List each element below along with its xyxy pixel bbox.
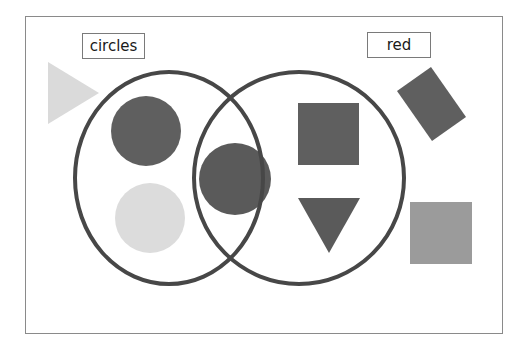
circle-red-left-shape [111, 96, 181, 166]
set-label-circles-text: circles [90, 37, 138, 55]
set-label-red-text: red [387, 36, 412, 54]
set-label-circles: circles [82, 33, 145, 59]
square-red-shape [298, 103, 359, 165]
circle-light-left-shape [115, 183, 185, 253]
set-label-red: red [367, 32, 431, 58]
square-gray-shape [410, 202, 472, 264]
venn-diagram: circles red [0, 0, 528, 348]
venn-canvas [0, 0, 528, 348]
